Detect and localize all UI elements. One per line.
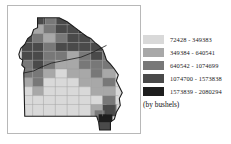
legend-label: 72428 - 349383 — [170, 35, 212, 44]
legend-item: 640542 - 1074699 — [143, 59, 229, 72]
county-row-central-2 — [22, 60, 116, 69]
legend-label: 349384 - 640541 — [170, 48, 215, 57]
legend-swatch — [143, 35, 164, 44]
legend-item: 349384 - 640541 — [143, 46, 229, 59]
map-panel — [7, 5, 141, 134]
legend-label: 640542 - 1074699 — [170, 61, 218, 70]
county-row-central-1 — [22, 51, 116, 60]
figure-root: 72428 - 349383 349384 - 640541 640542 - … — [0, 0, 231, 144]
legend-label: 1573839 - 2080294 — [170, 87, 222, 96]
legend-item: 72428 - 349383 — [143, 33, 229, 46]
legend-label: 1074700 - 1573838 — [170, 74, 222, 83]
county-row-north-2 — [22, 25, 116, 34]
county-row-south-1 — [22, 87, 116, 96]
legend-swatch — [143, 48, 164, 57]
county-row-central-4 — [22, 78, 116, 87]
legend-caption: (by bushels) — [143, 100, 179, 109]
legend-item: 1074700 - 1573838 — [143, 72, 229, 85]
legend-swatch — [143, 61, 164, 70]
legend-item: 1573839 - 2080294 — [143, 85, 229, 98]
legend: 72428 - 349383 349384 - 640541 640542 - … — [143, 33, 229, 98]
county-row-north-4 — [22, 42, 116, 51]
county-row-north-3 — [22, 34, 116, 43]
missouri-choropleth-map — [8, 6, 140, 133]
legend-swatch — [143, 74, 164, 83]
county-row-south-2 — [22, 96, 116, 105]
county-cells — [8, 6, 140, 133]
legend-swatch — [143, 87, 164, 96]
